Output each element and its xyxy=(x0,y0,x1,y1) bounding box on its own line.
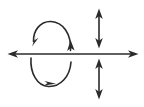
vertical-arrow-below-axis xyxy=(95,59,103,100)
vertical-arrow-above-axis xyxy=(95,9,103,49)
circulation-loop-upper-arc xyxy=(33,21,70,50)
diagram-canvas xyxy=(0,0,144,107)
loop-arrow-bottom-icon xyxy=(44,81,56,86)
circulation-loop-lower-arc xyxy=(31,58,71,87)
horizontal-axis xyxy=(8,50,139,58)
diagram-svg xyxy=(0,0,144,107)
